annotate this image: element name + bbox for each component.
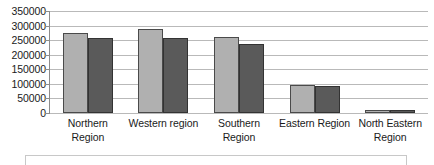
- y-axis-tick-label: 200000: [0, 50, 46, 60]
- plot-area: [50, 11, 428, 113]
- y-axis-tick-label: 150000: [0, 64, 46, 74]
- bar-series-2: [163, 38, 188, 113]
- y-axis-tick-label: 0: [0, 108, 46, 118]
- x-axis-label-line: Region: [50, 130, 126, 144]
- chart-legend: [25, 155, 407, 165]
- x-axis-label-line: North Eastern: [352, 116, 428, 130]
- bar-series-1: [290, 85, 315, 113]
- bar-group: [290, 11, 340, 113]
- x-axis-label-line: Region: [352, 130, 428, 144]
- y-axis-tick-label: 300000: [0, 21, 46, 31]
- y-axis-tick: [45, 69, 50, 70]
- y-axis-tick: [45, 55, 50, 56]
- x-axis-label-line: Southern: [201, 116, 277, 130]
- x-axis-label-line: Northern: [50, 116, 126, 130]
- x-axis-label-line: Region: [201, 130, 277, 144]
- bar-series-2: [390, 110, 415, 113]
- x-axis-label: Western region: [126, 116, 202, 130]
- y-axis-tick: [45, 98, 50, 99]
- y-axis-tick-label: 250000: [0, 35, 46, 45]
- y-axis-tick: [45, 11, 50, 12]
- y-axis-tick-label: 50000: [0, 93, 46, 103]
- y-axis-tick-label: 350000: [0, 6, 46, 16]
- x-axis-label: NorthernRegion: [50, 116, 126, 144]
- y-axis-tick: [45, 113, 50, 114]
- x-axis-label-line: Eastern Region: [277, 116, 353, 130]
- y-axis-tick-labels: 0500001000001500002000002500003000003500…: [0, 0, 46, 125]
- bar-series-1: [214, 37, 239, 113]
- bar-series-1: [138, 29, 163, 114]
- bar-group: [138, 11, 188, 113]
- bar-series-2: [239, 44, 264, 113]
- bar-group: [214, 11, 264, 113]
- bar-series-2: [88, 38, 113, 113]
- y-axis-tick: [45, 26, 50, 27]
- bar-chart: 0500001000001500002000002500003000003500…: [0, 0, 434, 165]
- x-axis-label: Eastern Region: [277, 116, 353, 130]
- y-axis-tick: [45, 40, 50, 41]
- bar-group: [63, 11, 113, 113]
- bar-series-2: [315, 86, 340, 113]
- bar-series-1: [365, 110, 390, 113]
- bar-series-1: [63, 33, 88, 113]
- y-axis-tick-label: 100000: [0, 79, 46, 89]
- x-axis-label: North EasternRegion: [352, 116, 428, 144]
- gridline: [50, 113, 428, 114]
- x-axis-label: SouthernRegion: [201, 116, 277, 144]
- y-axis-tick: [45, 84, 50, 85]
- x-axis-category-labels: NorthernRegionWestern regionSouthernRegi…: [50, 116, 428, 152]
- bar-group: [365, 11, 415, 113]
- x-axis-label-line: Western region: [126, 116, 202, 130]
